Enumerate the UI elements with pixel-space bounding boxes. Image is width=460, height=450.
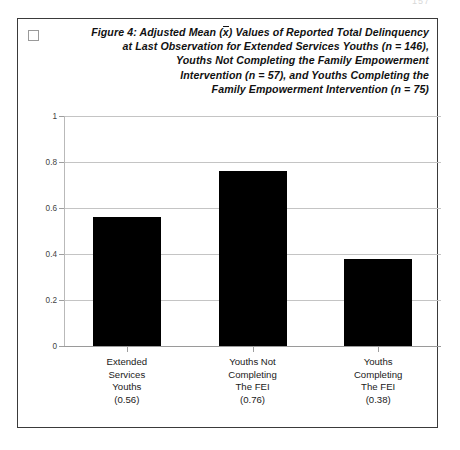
chart-plot-wrapper: 00.20.40.60.81 ExtendedServicesYouths(0.… [18,19,439,429]
x-tick-mark [253,346,254,352]
x-category-label-line: Completing [354,369,403,382]
y-tick-mark [59,346,64,347]
y-tick-label: 0.6 [46,204,57,213]
y-tick-mark [59,300,64,301]
y-tick-label: 0.8 [46,158,57,167]
x-category-label-line: Youths Not [228,356,277,369]
figure-frame: Figure 4: Adjusted Mean (x) Values of Re… [17,18,438,428]
x-tick-mark [378,346,379,352]
y-axis-line [64,116,65,346]
x-category-label-line: Services [107,369,148,382]
chart-plot-area: 00.20.40.60.81 ExtendedServicesYouths(0.… [64,116,441,346]
x-category-label-line: The FEI [354,381,403,394]
x-tick-mark [127,346,128,352]
gridline [64,162,441,163]
x-category-label: Youths NotCompletingThe FEI(0.76) [228,356,277,406]
y-tick-mark [59,208,64,209]
page-number: 157 [404,0,438,5]
bar [344,259,412,346]
y-tick-mark [59,254,64,255]
x-category-label: YouthsCompletingThe FEI(0.38) [354,356,403,406]
x-category-value: (0.38) [354,394,403,407]
y-tick-label: 0.2 [46,296,57,305]
bar [219,171,287,346]
y-tick-mark [59,162,64,163]
x-category-label-line: Youths [354,356,403,369]
y-tick-label: 0 [52,342,57,351]
x-category-label: ExtendedServicesYouths(0.56) [107,356,148,406]
x-category-label-line: Youths [107,381,148,394]
y-tick-mark [59,116,64,117]
x-category-label-line: Extended [107,356,148,369]
x-category-value: (0.56) [107,394,148,407]
x-category-value: (0.76) [228,394,277,407]
bar [93,217,161,346]
gridline [64,116,441,117]
x-category-label-line: Completing [228,369,277,382]
x-category-label-line: The FEI [228,381,277,394]
y-tick-label: 0.4 [46,250,57,259]
y-tick-label: 1 [52,112,57,121]
